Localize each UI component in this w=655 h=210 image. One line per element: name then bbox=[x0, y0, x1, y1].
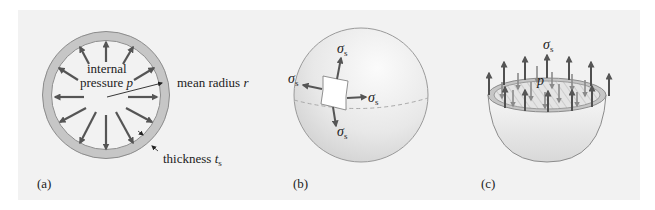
sigma-bottom-label: σs bbox=[337, 125, 347, 141]
thickness-word: thickness bbox=[163, 151, 211, 166]
thickness-subscript: s bbox=[218, 158, 222, 168]
pressure-label: pressure p bbox=[80, 76, 133, 89]
hemisphere-pressure-label: p bbox=[537, 74, 544, 88]
caption-c: (c) bbox=[481, 177, 495, 190]
thickness-label: thickness ts bbox=[163, 152, 222, 168]
figure-drawing bbox=[0, 0, 655, 210]
radius-symbol: r bbox=[243, 75, 248, 90]
internal-label: internal bbox=[87, 62, 127, 75]
sigma-top-label: σs bbox=[337, 42, 347, 58]
mean-radius-word: mean radius bbox=[177, 75, 240, 90]
caption-a: (a) bbox=[37, 177, 51, 190]
pressure-word: pressure bbox=[80, 75, 123, 90]
sigma-right-label: σs bbox=[368, 91, 378, 107]
internal-pressure-arrows bbox=[55, 42, 157, 149]
pressure-symbol: p bbox=[127, 75, 134, 90]
mean-radius-label: mean radius r bbox=[177, 76, 248, 89]
sphere bbox=[294, 28, 428, 162]
sigma-left-label: σs bbox=[288, 72, 298, 88]
caption-b: (b) bbox=[293, 177, 308, 190]
sigma-hemisphere-label: σs bbox=[543, 38, 553, 54]
stress-element bbox=[321, 76, 348, 110]
